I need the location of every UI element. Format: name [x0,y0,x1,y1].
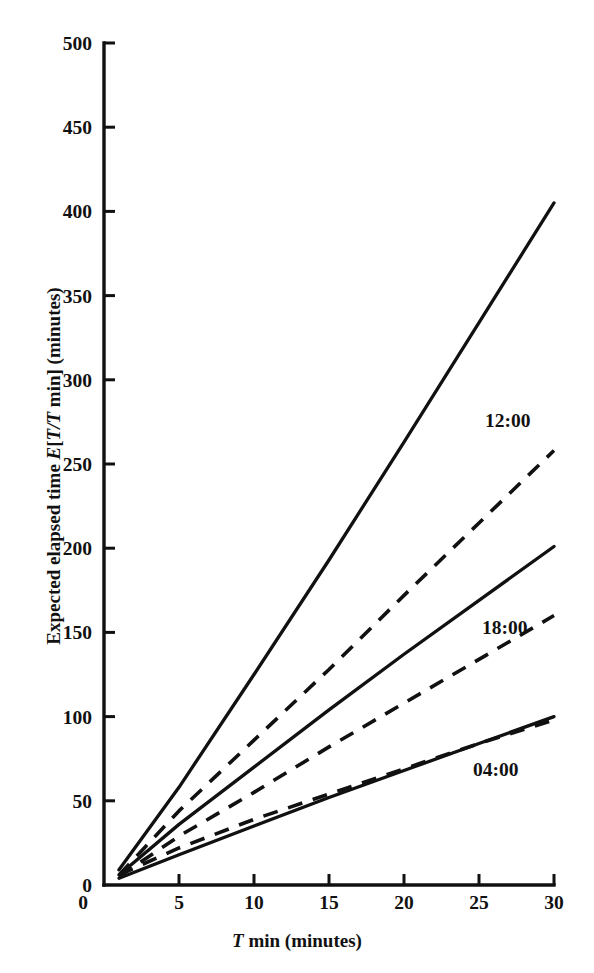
x-tick-label: 10 [244,892,264,913]
chart-figure: 050100150200250300350400450500 051015202… [0,0,594,973]
y-axis-title: Expected elapsed time E[T/T min] (minute… [43,46,65,886]
y-tick-label: 300 [63,370,92,391]
y-axis-title-lead: Expected elapsed time [43,459,64,644]
y-tick-label: 200 [63,538,92,559]
x-tick-label: 20 [394,892,414,913]
y-axis-title-symbol-t2: T [43,412,64,424]
y-axis-title-symbol-t1: T [43,429,64,441]
x-tick-label: 25 [469,892,489,913]
y-axis-title-text: Expected elapsed time E[T/T min] (minute… [43,287,64,644]
x-tick-label: 30 [544,892,564,913]
chart-series-annotations: 12:0018:0004:00 [473,410,531,780]
series-annotation-0400: 04:00 [473,759,519,780]
y-axis-tick-labels: 050100150200250300350400450500 [63,33,92,896]
y-tick-label: 400 [63,201,92,222]
line-chart-plot: 050100150200250300350400450500 051015202… [0,0,594,973]
y-axis-title-symbol-e: E [43,447,64,460]
y-tick-label: 350 [63,286,92,307]
y-tick-label: 100 [63,707,92,728]
y-tick-label: 450 [63,117,92,138]
x-axis-title-text: T min (minutes) [232,930,362,951]
y-tick-label: 500 [63,33,92,54]
x-tick-label: 15 [319,892,339,913]
x-axis-title-rest: min (minutes) [244,930,362,951]
x-axis-title-symbol: T [232,930,244,951]
series-line-1200-dashed [119,451,554,875]
x-axis-title: T min (minutes) [0,930,594,952]
series-annotation-1200: 12:00 [485,410,531,431]
x-axis-tick-labels: 051015202530 [78,892,564,913]
y-axis-title-rest: min] (minutes) [43,287,64,412]
y-tick-label: 50 [73,791,93,812]
x-tick-label: 5 [174,892,184,913]
series-annotation-1800: 18:00 [482,617,528,638]
series-line-1800-dashed [119,616,554,877]
y-tick-label: 150 [63,622,92,643]
y-axis-title-slash: / [43,424,64,429]
x-tick-label: 0 [78,892,88,913]
y-tick-label: 250 [63,454,92,475]
series-line-1800-solid [119,547,554,875]
y-axis-title-bracket: [ [43,440,64,446]
